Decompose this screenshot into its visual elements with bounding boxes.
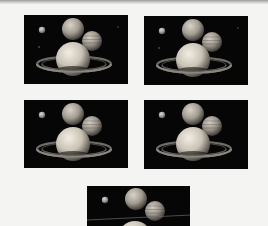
moon-icon — [159, 112, 165, 118]
page-edge-shadow — [0, 0, 268, 4]
moon-icon — [159, 28, 165, 34]
planet-thumbnail-5[interactable] — [87, 186, 190, 226]
planet-thumbnail-3[interactable] — [24, 100, 128, 168]
planet-thumbnail-1[interactable] — [24, 15, 128, 84]
moon-icon — [39, 112, 45, 118]
moon-icon — [102, 197, 108, 203]
planet-thumbnail-2[interactable] — [144, 16, 248, 85]
planet-thumbnail-4[interactable] — [144, 100, 248, 169]
moon-icon — [39, 27, 45, 33]
